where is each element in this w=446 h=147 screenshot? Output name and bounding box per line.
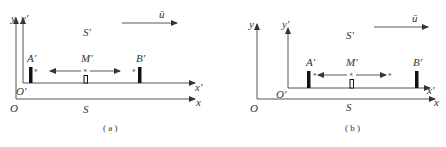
caption-b: ( b ) [345, 123, 360, 133]
signal-star-A: * [34, 68, 38, 76]
signal-star-B: * [132, 68, 136, 76]
point-M-prime-label: M' [80, 52, 93, 64]
origin-O-label: O [10, 102, 18, 114]
origin-O-prime-label: O' [276, 88, 287, 100]
point-M-prime-label: M' [345, 56, 358, 68]
y-axis-label: y [10, 12, 16, 24]
point-A-prime-label: A' [26, 52, 37, 64]
mirror-B-prime [138, 67, 142, 83]
x-axis-label: x [433, 96, 439, 108]
point-B-prime-label: B' [413, 56, 423, 68]
x-prime-axis-label: x' [194, 81, 203, 93]
y-prime-axis-label: y' [20, 12, 29, 24]
source-M-prime [84, 76, 88, 84]
x-prime-axis-label: x' [426, 84, 435, 96]
velocity-label: ū [412, 12, 418, 24]
frame-S-prime-label: S' [346, 29, 355, 41]
point-B-prime-label: B' [136, 52, 146, 64]
y-prime-axis-label: y' [281, 18, 290, 30]
signal-star-M: * [350, 72, 354, 80]
velocity-label: ū [159, 8, 165, 20]
mirror-A-prime [307, 71, 311, 88]
x-axis-label: x [195, 96, 201, 108]
caption-a: ( a ) [103, 123, 118, 133]
mirror-B-prime [415, 71, 419, 88]
source-M-prime [350, 80, 354, 89]
y-axis-label: y [248, 18, 254, 30]
signal-star-A: * [313, 72, 317, 80]
frame-S-label: S [83, 103, 89, 115]
origin-O-prime-label: O' [16, 85, 27, 97]
relativity-diagram: y y' x' x O O' S' S ū A' * M' * B' * ( … [0, 0, 446, 147]
panel-b: y y' x' x O O' S' S ū A' * M' * * B' ( … [248, 12, 439, 133]
point-A-prime-label: A' [305, 56, 316, 68]
frame-S-label: S [346, 101, 352, 113]
signal-star-right: * [388, 72, 392, 80]
signal-star-M: * [84, 68, 88, 76]
mirror-A-prime [29, 67, 33, 83]
panel-a: y y' x' x O O' S' S ū A' * M' * B' * ( … [10, 8, 203, 133]
frame-S-prime-label: S' [83, 26, 92, 38]
origin-O-label: O [250, 102, 258, 114]
